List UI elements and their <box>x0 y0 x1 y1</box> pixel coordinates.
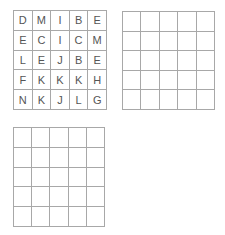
grid-cell: E <box>88 51 107 71</box>
grid-cell <box>141 12 159 32</box>
grid-cell <box>87 128 105 148</box>
grid-cell <box>87 148 105 168</box>
empty-grid-bottom-left <box>13 127 105 227</box>
grid-cell <box>197 12 215 32</box>
grid-cell: L <box>70 90 89 110</box>
grid-cell: K <box>70 70 89 90</box>
grid-cell: C <box>70 31 89 51</box>
grid-cell <box>123 12 141 32</box>
grid-cell <box>123 71 141 91</box>
grid-cell <box>178 12 196 32</box>
grid-cell <box>50 148 68 168</box>
grid-cell <box>69 168 87 188</box>
grid-cell <box>87 187 105 207</box>
grid-cell <box>50 187 68 207</box>
grid-cell <box>178 51 196 71</box>
grid-cell <box>123 32 141 52</box>
grid-cell <box>160 90 178 110</box>
grid-cell: J <box>51 51 70 71</box>
grid-cell <box>141 71 159 91</box>
grid-cell: E <box>88 11 107 31</box>
grid-cell: K <box>33 70 52 90</box>
grid-cell <box>14 128 32 148</box>
grid-cell <box>69 187 87 207</box>
grid-cell <box>32 187 50 207</box>
grid-cell <box>14 168 32 188</box>
grid-cell: D <box>14 11 33 31</box>
letter-grid: DMIBEECICMLEJBEFKKKHNKJLG <box>13 10 107 110</box>
grid-cell <box>141 32 159 52</box>
grid-cell <box>50 168 68 188</box>
grid-cell <box>123 90 141 110</box>
grid-cell <box>32 168 50 188</box>
grid-cell <box>32 207 50 227</box>
grid-cell <box>32 148 50 168</box>
grid-cell <box>14 187 32 207</box>
grid-cell <box>50 128 68 148</box>
grid-cell <box>141 90 159 110</box>
grid-cell: J <box>51 90 70 110</box>
grid-cell <box>197 32 215 52</box>
grid-cell: L <box>14 51 33 71</box>
grid-cell <box>141 51 159 71</box>
grid-cell <box>69 207 87 227</box>
grid-cell <box>14 207 32 227</box>
grid-cell: I <box>51 31 70 51</box>
grid-cell: B <box>70 11 89 31</box>
grid-cell <box>178 71 196 91</box>
grid-cell <box>178 32 196 52</box>
grid-cell: C <box>33 31 52 51</box>
grid-cell <box>197 90 215 110</box>
grid-cell: G <box>88 90 107 110</box>
grid-cell: E <box>33 51 52 71</box>
grid-cell <box>160 71 178 91</box>
grid-cell <box>197 71 215 91</box>
grid-cell <box>178 90 196 110</box>
grid-cell <box>160 12 178 32</box>
grid-cell: K <box>33 90 52 110</box>
grid-cell: E <box>14 31 33 51</box>
grid-cell: I <box>51 11 70 31</box>
grid-cell: K <box>51 70 70 90</box>
grid-cell: N <box>14 90 33 110</box>
grid-cell <box>69 128 87 148</box>
grid-cell: F <box>14 70 33 90</box>
grid-cell <box>87 168 105 188</box>
grid-cell <box>160 32 178 52</box>
grid-cell <box>69 148 87 168</box>
empty-grid-top-right <box>122 11 215 110</box>
grid-cell <box>32 128 50 148</box>
grid-cell <box>160 51 178 71</box>
grid-cell: M <box>88 31 107 51</box>
grid-cell <box>50 207 68 227</box>
grid-cell: B <box>70 51 89 71</box>
grid-cell: H <box>88 70 107 90</box>
grid-cell <box>197 51 215 71</box>
grid-cell: M <box>33 11 52 31</box>
grid-cell <box>14 148 32 168</box>
grid-cell <box>87 207 105 227</box>
grid-cell <box>123 51 141 71</box>
